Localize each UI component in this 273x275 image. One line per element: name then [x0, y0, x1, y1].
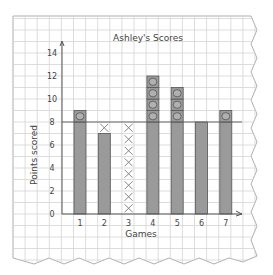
- y-tick-label: 0: [49, 210, 54, 219]
- x-tick-label: 5: [175, 219, 180, 228]
- x-tick-label: 1: [77, 219, 82, 228]
- bar-game-6: [196, 122, 208, 214]
- y-tick-label: 4: [49, 164, 54, 173]
- y-tick-label: 6: [49, 141, 54, 150]
- circle-mark-icon: [173, 90, 181, 97]
- bar-game-1: [74, 122, 86, 214]
- circle-mark-icon: [222, 113, 230, 120]
- circle-mark-icon: [173, 101, 181, 108]
- x-tick-label: 4: [150, 219, 155, 228]
- circle-mark-icon: [76, 113, 84, 120]
- chart-title: Ashley's Scores: [113, 33, 183, 43]
- circle-mark-icon: [149, 113, 157, 120]
- x-tick-label: 6: [199, 219, 204, 228]
- x-axis-label: Games: [125, 229, 157, 239]
- y-tick-label: 8: [49, 118, 54, 127]
- circle-mark-icon: [149, 101, 157, 108]
- circle-mark-icon: [149, 90, 157, 97]
- bar-game-4: [147, 122, 159, 214]
- y-tick-label: 12: [47, 72, 57, 81]
- x-tick-label: 2: [102, 219, 107, 228]
- bar-game-5: [171, 122, 183, 214]
- y-tick-label: 2: [49, 187, 54, 196]
- y-tick-label: 10: [47, 95, 57, 104]
- circle-mark-icon: [173, 113, 181, 120]
- chart: Ashley's Scores 02468101214 1234567 Poin…: [0, 0, 273, 275]
- bar-game-2: [98, 134, 110, 215]
- circle-mark-icon: [149, 78, 157, 85]
- y-tick-label: 14: [47, 49, 57, 58]
- bar-game-7: [220, 122, 232, 214]
- x-tick-label: 7: [223, 219, 228, 228]
- y-axis-label: Points scored: [29, 125, 39, 185]
- x-tick-label: 3: [126, 219, 131, 228]
